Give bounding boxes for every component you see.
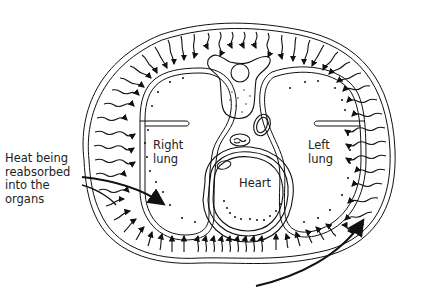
annotation-line-4: organs (5, 193, 70, 207)
annotation-line-1: Heat being (5, 152, 70, 166)
right-lung-label-line-1: Right (153, 139, 183, 153)
heart-dots (223, 200, 281, 221)
left-lung-label-line-1: Left (308, 139, 333, 153)
annotation-line-3: into the (5, 179, 70, 193)
right-lung-label: Right lung (153, 139, 183, 166)
esophagus (230, 134, 250, 146)
vertebra-texture (229, 89, 250, 112)
body-wall (83, 23, 395, 263)
annotation-label: Heat being reabsorbed into the organs (5, 152, 70, 206)
left-lung-label-line-2: lung (308, 153, 333, 167)
annotation-line-2: reabsorbed (5, 166, 70, 180)
left-lung-label: Left lung (308, 139, 333, 166)
heart-label: Heart (239, 177, 271, 191)
right-lung-label-line-2: lung (153, 153, 183, 167)
